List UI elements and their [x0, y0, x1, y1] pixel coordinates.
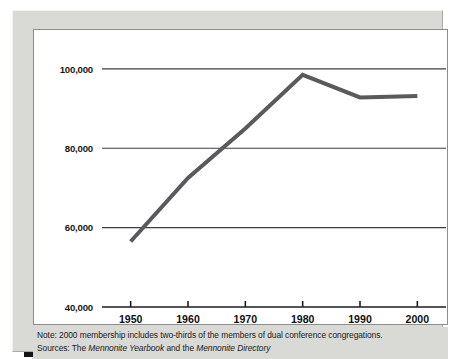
- sources-title-yearbook: Mennonite Yearbook: [88, 343, 164, 353]
- line-chart: 40,00060,00080,000100,000 19501960197019…: [34, 30, 449, 326]
- gridlines-group: [102, 69, 446, 228]
- y-tick-label-60000: 60,000: [65, 222, 93, 233]
- sources-title-directory: Mennonite Directory: [196, 343, 270, 353]
- x-tick-label-1980: 1980: [291, 313, 315, 325]
- note-text: Note: 2000 membership includes two-third…: [37, 330, 383, 340]
- x-tick-label-1950: 1950: [119, 313, 143, 325]
- figure-root: 40,00060,00080,000100,000 19501960197019…: [0, 0, 465, 359]
- note-line-membership: Note: 2000 membership includes two-third…: [37, 329, 448, 342]
- figure-frame: 40,00060,00080,000100,000 19501960197019…: [12, 10, 443, 352]
- x-tick-label-2000: 2000: [406, 313, 430, 325]
- chart-notes: Note: 2000 membership includes two-third…: [33, 327, 448, 359]
- y-tick-label-80000: 80,000: [65, 143, 93, 154]
- y-tick-label-100000: 100,000: [60, 64, 93, 75]
- y-axis-tick-labels: 40,00060,00080,000100,000: [60, 64, 93, 313]
- x-axis-tick-labels: 195019601970198019902000: [119, 313, 429, 325]
- chart-panel: 40,00060,00080,000100,000 19501960197019…: [33, 29, 448, 325]
- note-line-sources: Sources: The Mennonite Yearbook and the …: [37, 342, 448, 355]
- series-line-0: [131, 75, 418, 242]
- data-series-group: [131, 75, 418, 242]
- x-axis: [102, 301, 446, 307]
- sources-conjunction: and the: [164, 343, 196, 353]
- sources-prefix: Sources: The: [37, 343, 88, 353]
- x-tick-label-1970: 1970: [234, 313, 258, 325]
- x-tick-label-1960: 1960: [176, 313, 200, 325]
- y-tick-label-40000: 40,000: [65, 302, 93, 313]
- x-tick-label-1990: 1990: [348, 313, 372, 325]
